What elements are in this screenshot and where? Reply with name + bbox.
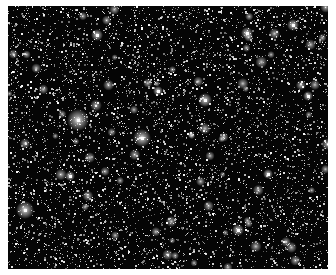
star-field-image: [8, 6, 328, 269]
star-field-canvas: [8, 6, 328, 269]
